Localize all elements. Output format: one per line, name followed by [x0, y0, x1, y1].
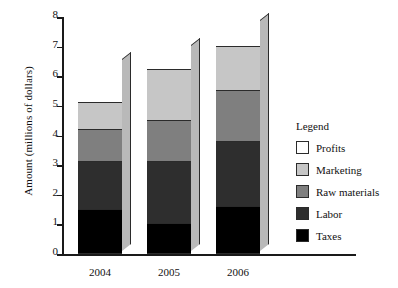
y-tick-label-5: 5 — [53, 98, 59, 109]
segment-2005-marketing[interactable] — [147, 69, 191, 119]
y-tick-5: 5 — [62, 106, 68, 108]
y-tick-2: 2 — [62, 195, 68, 197]
segment-2004-raw-materials[interactable] — [78, 129, 122, 162]
bar-2006[interactable] — [216, 23, 260, 254]
legend-swatch-profits-icon — [296, 141, 309, 154]
legend: Legend Profits Marketing Raw materials L… — [296, 120, 396, 251]
legend-swatch-taxes-icon — [296, 229, 309, 242]
x-axis-label-2006: 2006 — [208, 266, 268, 278]
y-tick-label-1: 1 — [53, 216, 59, 227]
legend-item-marketing[interactable]: Marketing — [296, 163, 396, 176]
segment-2006-labor[interactable] — [216, 141, 260, 206]
y-tick-7: 7 — [62, 47, 68, 49]
bar-2004-side-face — [122, 52, 131, 251]
segment-2006-profits[interactable] — [216, 22, 260, 46]
y-tick-4: 4 — [62, 136, 68, 138]
y-tick-label-2: 2 — [53, 187, 59, 198]
y-tick-6: 6 — [62, 76, 68, 78]
legend-label-taxes: Taxes — [316, 230, 342, 242]
y-tick-0: 0 — [62, 254, 68, 256]
legend-swatch-marketing-icon — [296, 163, 309, 176]
segment-2006-marketing[interactable] — [216, 46, 260, 90]
x-axis-label-2005: 2005 — [139, 266, 199, 278]
legend-label-labor: Labor — [316, 208, 342, 220]
segment-2006-taxes[interactable] — [216, 206, 260, 253]
y-tick-label-4: 4 — [53, 128, 59, 139]
y-tick-3: 3 — [62, 165, 68, 167]
legend-item-raw-materials[interactable]: Raw materials — [296, 185, 396, 198]
x-axis-line — [62, 254, 356, 256]
y-tick-1: 1 — [62, 224, 68, 226]
y-tick-label-3: 3 — [53, 157, 59, 168]
segment-2005-raw-materials[interactable] — [147, 120, 191, 161]
y-axis-title: Amount (millions of dollars) — [22, 31, 34, 231]
legend-label-profits: Profits — [316, 142, 345, 154]
bar-2005-side-face — [191, 38, 200, 251]
segment-2004-labor[interactable] — [78, 161, 122, 208]
bar-2004[interactable] — [78, 62, 122, 254]
stacked-bar-chart: Amount (millions of dollars) 8 7 6 5 4 3… — [0, 0, 398, 288]
y-tick-label-8: 8 — [53, 9, 59, 20]
y-tick-label-0: 0 — [53, 246, 59, 257]
y-tick-label-6: 6 — [53, 68, 59, 79]
legend-item-profits[interactable]: Profits — [296, 141, 396, 154]
bar-2006-side-face — [260, 13, 269, 251]
segment-2005-labor[interactable] — [147, 161, 191, 223]
x-axis-label-2004: 2004 — [70, 266, 130, 278]
y-tick-label-7: 7 — [53, 39, 59, 50]
y-tick-8: 8 — [62, 17, 68, 19]
segment-2004-profits[interactable] — [78, 61, 122, 102]
segment-2006-raw-materials[interactable] — [216, 90, 260, 140]
segment-2005-taxes[interactable] — [147, 223, 191, 253]
segment-2004-taxes[interactable] — [78, 209, 122, 253]
legend-swatch-raw-materials-icon — [296, 185, 309, 198]
legend-item-labor[interactable]: Labor — [296, 207, 396, 220]
segment-2005-profits[interactable] — [147, 47, 191, 69]
segment-2004-marketing[interactable] — [78, 102, 122, 129]
legend-label-marketing: Marketing — [316, 164, 362, 176]
legend-title: Legend — [296, 120, 396, 132]
plot-area: 8 7 6 5 4 3 2 1 0 — [62, 14, 280, 256]
legend-label-raw-materials: Raw materials — [316, 186, 379, 198]
legend-swatch-labor-icon — [296, 207, 309, 220]
legend-item-taxes[interactable]: Taxes — [296, 229, 396, 242]
bar-2005[interactable] — [147, 48, 191, 254]
